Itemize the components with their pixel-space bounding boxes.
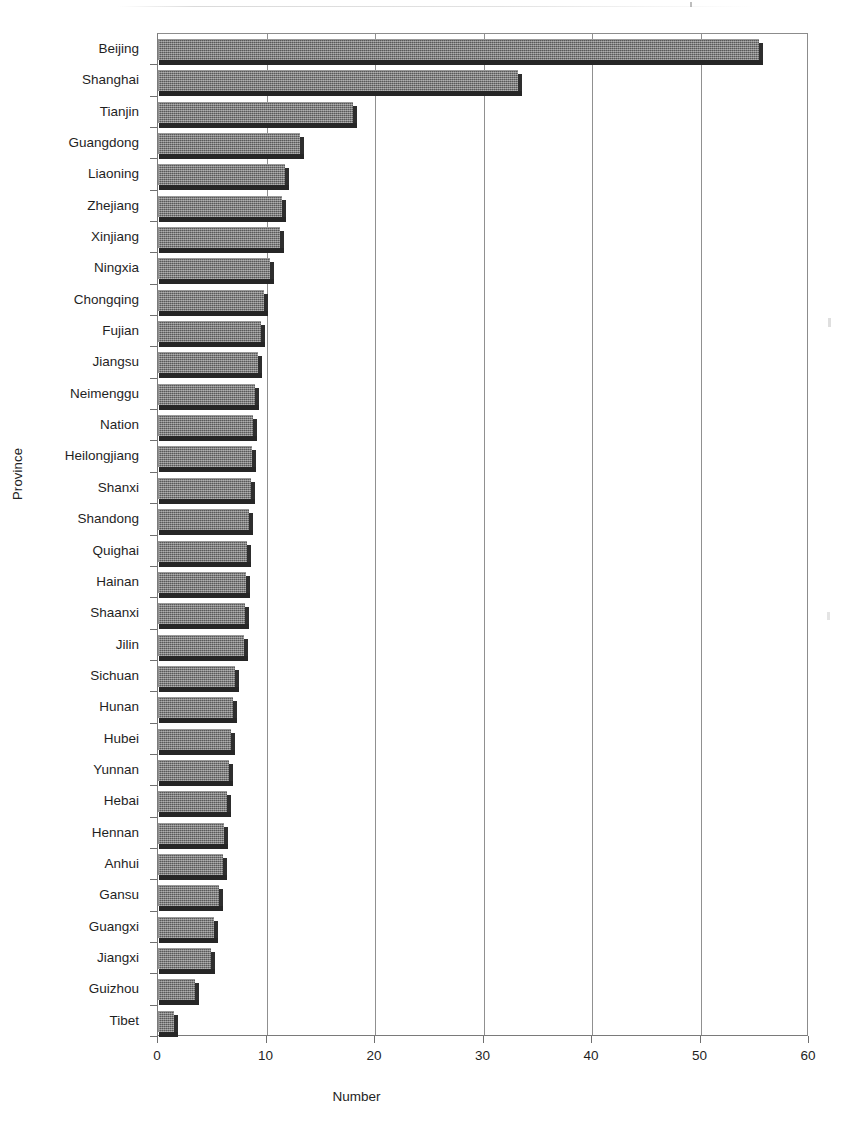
bar-row[interactable] xyxy=(158,536,809,568)
bar[interactable] xyxy=(158,729,231,750)
bar[interactable] xyxy=(158,885,219,906)
bar[interactable] xyxy=(158,227,280,248)
bar-row[interactable] xyxy=(158,786,809,818)
y-axis-tick xyxy=(150,315,157,316)
bar-row[interactable] xyxy=(158,974,809,1006)
bar-row[interactable] xyxy=(158,630,809,662)
x-axis-tick-label: 60 xyxy=(800,1048,815,1063)
bar-row[interactable] xyxy=(158,222,809,254)
bar-row[interactable] xyxy=(158,285,809,317)
bar[interactable] xyxy=(158,352,258,373)
bar[interactable] xyxy=(158,854,223,875)
y-axis-tick xyxy=(150,252,157,253)
bar-row[interactable] xyxy=(158,567,809,599)
bar-row[interactable] xyxy=(158,34,809,66)
bar-row[interactable] xyxy=(158,912,809,944)
y-axis-tick xyxy=(150,472,157,473)
bar[interactable] xyxy=(158,760,229,781)
bar[interactable] xyxy=(158,384,255,405)
bar-row[interactable] xyxy=(158,818,809,850)
y-axis-tick xyxy=(150,629,157,630)
bar[interactable] xyxy=(158,603,245,624)
bar[interactable] xyxy=(158,321,261,342)
bar-row[interactable] xyxy=(158,97,809,129)
y-axis-tick xyxy=(150,346,157,347)
x-axis-tick-label: 20 xyxy=(366,1048,381,1063)
bar[interactable] xyxy=(158,635,244,656)
bar[interactable] xyxy=(158,290,264,311)
bar[interactable] xyxy=(158,917,214,938)
bar-row[interactable] xyxy=(158,473,809,505)
bar[interactable] xyxy=(158,102,353,123)
bar-row[interactable] xyxy=(158,880,809,912)
bar[interactable] xyxy=(158,666,235,687)
y-axis-label: Liaoning xyxy=(88,158,139,190)
y-axis-tick xyxy=(150,503,157,504)
bar-row[interactable] xyxy=(158,410,809,442)
bar-row[interactable] xyxy=(158,316,809,348)
bar-row[interactable] xyxy=(158,379,809,411)
y-axis-label: Sichuan xyxy=(90,660,139,692)
y-axis-tick xyxy=(150,973,157,974)
y-axis-ticks xyxy=(150,33,157,1036)
bar-row[interactable] xyxy=(158,347,809,379)
bar[interactable] xyxy=(158,133,300,154)
y-axis-tick xyxy=(150,785,157,786)
y-axis-label: Ningxia xyxy=(94,252,139,284)
bar[interactable] xyxy=(158,823,224,844)
bar[interactable] xyxy=(158,541,247,562)
bar-row[interactable] xyxy=(158,128,809,160)
bar-row[interactable] xyxy=(158,253,809,285)
y-axis-label: Hainan xyxy=(96,566,139,598)
bar[interactable] xyxy=(158,791,227,812)
y-axis-tick xyxy=(150,1036,157,1037)
bar-row[interactable] xyxy=(158,943,809,975)
bar[interactable] xyxy=(158,164,285,185)
bar-row[interactable] xyxy=(158,159,809,191)
x-axis-tick-labels: 0102030405060 xyxy=(157,1048,808,1068)
x-axis-tick xyxy=(700,1036,701,1043)
bar[interactable] xyxy=(158,258,270,279)
bar[interactable] xyxy=(158,1011,174,1032)
y-axis-tick xyxy=(150,879,157,880)
bar-row[interactable] xyxy=(158,724,809,756)
x-axis-tick xyxy=(483,1036,484,1043)
y-axis-tick xyxy=(150,691,157,692)
bar[interactable] xyxy=(158,948,211,969)
y-axis-label: Heilongjiang xyxy=(65,440,139,472)
bar[interactable] xyxy=(158,415,253,436)
bar[interactable] xyxy=(158,39,759,60)
bar-row[interactable] xyxy=(158,441,809,473)
y-axis-label: Gansu xyxy=(99,879,139,911)
bar[interactable] xyxy=(158,446,252,467)
bar[interactable] xyxy=(158,70,518,91)
y-axis-label: Shandong xyxy=(77,503,139,535)
y-axis-tick xyxy=(150,535,157,536)
bar-row[interactable] xyxy=(158,692,809,724)
y-axis-label: Guangxi xyxy=(89,911,139,943)
y-axis-tick xyxy=(150,566,157,567)
bar[interactable] xyxy=(158,572,246,593)
bar-row[interactable] xyxy=(158,191,809,223)
horizontal-bar-chart: Province BeijingShanghaiTianjinGuangdong… xyxy=(0,0,851,1121)
bar[interactable] xyxy=(158,697,233,718)
y-axis-label: Beijing xyxy=(98,33,139,65)
bar-row[interactable] xyxy=(158,598,809,630)
bar-row[interactable] xyxy=(158,65,809,97)
bar[interactable] xyxy=(158,196,282,217)
bar-row[interactable] xyxy=(158,661,809,693)
y-axis-tick xyxy=(150,96,157,97)
bar-row[interactable] xyxy=(158,849,809,881)
bar[interactable] xyxy=(158,509,249,530)
bar-row[interactable] xyxy=(158,1006,809,1038)
y-axis-tick xyxy=(150,409,157,410)
x-axis-tick xyxy=(591,1036,592,1043)
bar[interactable] xyxy=(158,478,251,499)
y-axis-tick xyxy=(150,754,157,755)
bar-row[interactable] xyxy=(158,504,809,536)
bar-row[interactable] xyxy=(158,755,809,787)
y-axis-label: Hebai xyxy=(104,785,139,817)
y-axis-category-labels: BeijingShanghaiTianjinGuangdongLiaoningZ… xyxy=(0,33,150,1036)
bar[interactable] xyxy=(158,979,195,1000)
y-axis-tick xyxy=(150,597,157,598)
